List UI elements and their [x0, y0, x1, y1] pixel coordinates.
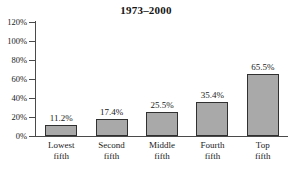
x-axis-category-label: Topfifth: [235, 140, 291, 162]
x-axis-category-line: Top: [235, 140, 291, 151]
x-axis-category-line: Fourth: [184, 140, 240, 151]
bar-value-label: 35.4%: [182, 91, 242, 100]
x-axis-category-line: fifth: [84, 151, 140, 162]
bar-group: 17.4%: [86, 22, 136, 136]
x-axis-category-label: Secondfifth: [84, 140, 140, 162]
y-axis-tick: [29, 22, 36, 23]
bar-value-label: 65.5%: [233, 63, 292, 72]
y-axis-tick: [29, 79, 36, 80]
y-axis-tick: [29, 41, 36, 42]
x-axis-category-line: fifth: [235, 151, 291, 162]
bar-group: 25.5%: [137, 22, 187, 136]
x-axis-line: [35, 136, 288, 137]
bar[interactable]: [146, 112, 178, 136]
bar[interactable]: [196, 102, 228, 136]
x-axis-category-line: fifth: [134, 151, 190, 162]
x-axis-category-label: Fourthfifth: [184, 140, 240, 162]
y-axis-tick-label: 80%: [0, 56, 27, 65]
bar-value-label: 17.4%: [82, 108, 142, 117]
bar-group: 35.4%: [187, 22, 237, 136]
y-axis-tick-label: 20%: [0, 113, 27, 122]
x-axis-category-label: Middlefifth: [134, 140, 190, 162]
bar[interactable]: [247, 74, 279, 136]
y-axis-tick: [29, 136, 36, 137]
x-axis-category-line: Second: [84, 140, 140, 151]
y-axis-tick-label: 0%: [0, 132, 27, 141]
y-axis-tick: [29, 60, 36, 61]
x-axis-category-line: fifth: [184, 151, 240, 162]
x-axis-category-label: Lowestfifth: [33, 140, 89, 162]
y-axis-tick-label: 120%: [0, 18, 27, 27]
bar-chart: 1973–2000 0%20%40%60%80%100%120% 11.2%17…: [0, 0, 292, 177]
bar-group: 11.2%: [36, 22, 86, 136]
bar[interactable]: [45, 125, 77, 136]
y-axis-tick: [29, 98, 36, 99]
bar[interactable]: [96, 119, 128, 136]
y-axis-tick-label: 60%: [0, 75, 27, 84]
bar-group: 65.5%: [238, 22, 288, 136]
x-axis-category-line: Lowest: [33, 140, 89, 151]
x-axis-category-line: Middle: [134, 140, 190, 151]
chart-title: 1973–2000: [0, 4, 292, 16]
x-axis-category-line: fifth: [33, 151, 89, 162]
y-axis-tick-label: 40%: [0, 94, 27, 103]
bar-value-label: 25.5%: [132, 101, 192, 110]
y-axis-tick-label: 100%: [0, 37, 27, 46]
